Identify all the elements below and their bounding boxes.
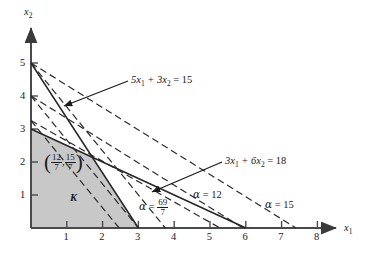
alpha-value-fraction: 697 (157, 198, 168, 218)
alpha-fraction-denominator: 7 (157, 207, 168, 217)
point-x-numerator: 12 (51, 153, 62, 162)
y-axis-label-sub: 2 (29, 11, 33, 20)
constraint-label-1-mid: + 3x (145, 74, 167, 85)
point-y-numerator: 15 (65, 153, 76, 162)
constraint-label-2-end: = 18 (265, 155, 287, 166)
constraint-label-2-mid: + 6x (239, 155, 261, 166)
constraint-label-1-end: = 15 (171, 74, 193, 85)
constraint-label-1: 5x1 + 3x2 = 15 (131, 74, 192, 88)
region-label-K: K (70, 192, 77, 203)
x-tick-label-1: 1 (64, 231, 69, 242)
alpha-equals-3: = (272, 199, 283, 210)
constraint-label-2-main: 3x (225, 155, 235, 166)
point-x-fraction: 127 (51, 153, 62, 173)
y-tick-label-2: 2 (20, 156, 25, 167)
x-axis-label-sub: 1 (349, 227, 353, 236)
x-tick-label-7: 7 (278, 231, 283, 242)
alpha-equals-1: = (146, 201, 157, 212)
graph-svg (0, 0, 373, 259)
objective-label-alpha-69-7: α = 697 (139, 198, 168, 218)
y-tick-label-5: 5 (20, 57, 25, 68)
x-tick-label-5: 5 (207, 231, 212, 242)
constraint-label-1-main: 5x (131, 74, 141, 85)
alpha-value-2: 12 (211, 189, 222, 200)
objective-label-alpha-12: α = 12 (193, 188, 222, 200)
point-open-paren: ( (44, 154, 51, 172)
point-y-fraction: 157 (65, 153, 76, 173)
x-tick-label-6: 6 (243, 231, 248, 242)
point-y-denominator: 7 (65, 162, 76, 172)
alpha-value-3: 15 (283, 199, 294, 210)
feasible-region-K (31, 129, 138, 228)
x-tick-label-2: 2 (99, 231, 104, 242)
x-tick-label-8: 8 (314, 231, 319, 242)
y-axis-label: x2 (24, 6, 32, 20)
alpha-equals-2: = (200, 189, 211, 200)
alpha-fraction-numerator: 69 (157, 198, 168, 207)
y-tick-label-1: 1 (20, 189, 25, 200)
figure-canvas: 1 2 3 4 5 6 7 8 1 2 3 4 5 x1 x2 5x1 + 3x… (0, 0, 373, 259)
optimal-point-label: (127,157) (44, 153, 83, 173)
y-tick-label-3: 3 (20, 123, 25, 134)
point-x-denominator: 7 (51, 162, 62, 172)
objective-label-alpha-15: α = 15 (265, 198, 294, 210)
x-tick-label-4: 4 (171, 231, 176, 242)
x-tick-label-3: 3 (135, 231, 140, 242)
y-tick-label-4: 4 (20, 90, 25, 101)
pointer-arrow-constraint1 (64, 81, 128, 106)
x-axis-label: x1 (344, 222, 352, 236)
constraint-label-2: 3x1 + 6x2 = 18 (225, 155, 286, 169)
point-close-paren: ) (76, 154, 83, 172)
